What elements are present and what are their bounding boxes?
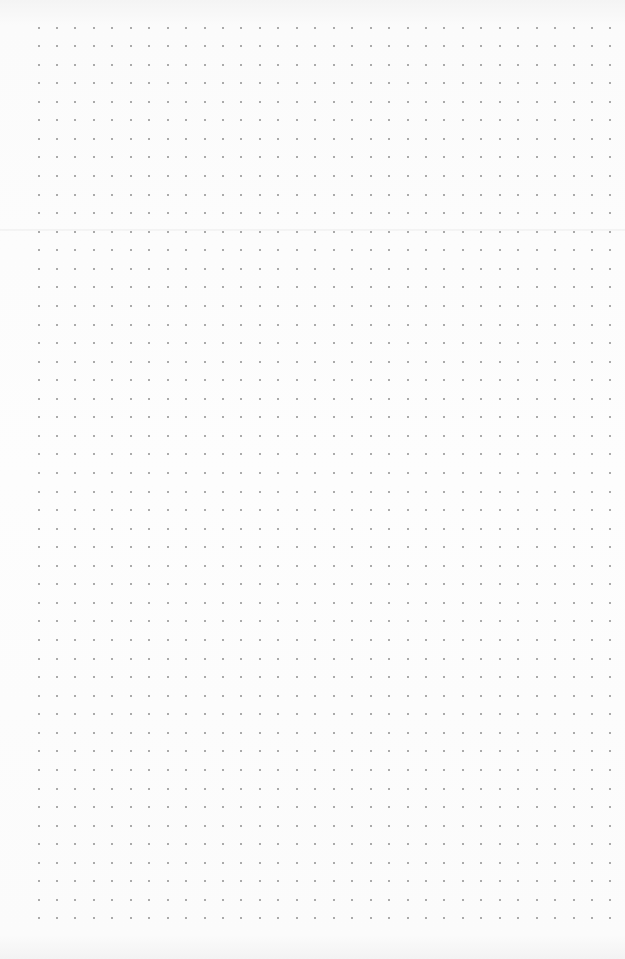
grid-dot	[591, 806, 593, 808]
grid-dot	[74, 565, 76, 567]
grid-dot	[296, 212, 298, 214]
grid-dot	[351, 583, 353, 585]
grid-dot	[222, 138, 224, 140]
grid-dot	[536, 416, 538, 418]
grid-dot	[74, 138, 76, 140]
grid-dot	[333, 286, 335, 288]
grid-dot	[204, 175, 206, 177]
grid-dot	[591, 825, 593, 827]
grid-dot	[167, 472, 169, 474]
grid-dot	[591, 713, 593, 715]
grid-dot	[74, 379, 76, 381]
grid-dot	[609, 491, 611, 493]
grid-dot	[204, 64, 206, 66]
grid-dot	[111, 825, 113, 827]
grid-dot	[314, 509, 316, 511]
grid-dot	[591, 175, 593, 177]
grid-dot	[573, 769, 575, 771]
grid-dot	[351, 194, 353, 196]
grid-dot	[554, 194, 556, 196]
grid-dot	[130, 361, 132, 363]
grid-dot	[111, 602, 113, 604]
grid-dot	[351, 138, 353, 140]
grid-dot	[333, 620, 335, 622]
grid-dot	[333, 695, 335, 697]
grid-dot	[148, 175, 150, 177]
grid-dot	[38, 268, 40, 270]
grid-dot	[277, 324, 279, 326]
grid-dot	[240, 379, 242, 381]
grid-dot	[480, 101, 482, 103]
grid-dot	[591, 101, 593, 103]
grid-dot	[296, 788, 298, 790]
grid-dot	[591, 342, 593, 344]
grid-dot	[425, 825, 427, 827]
grid-dot	[74, 398, 76, 400]
grid-dot	[185, 639, 187, 641]
grid-dot	[38, 194, 40, 196]
grid-dot	[314, 119, 316, 121]
grid-dot	[609, 268, 611, 270]
grid-dot	[185, 676, 187, 678]
grid-dot	[130, 843, 132, 845]
grid-dot	[370, 658, 372, 660]
grid-dot	[296, 732, 298, 734]
grid-dot	[351, 286, 353, 288]
grid-dot	[314, 212, 316, 214]
grid-dot	[536, 268, 538, 270]
grid-dot	[536, 175, 538, 177]
grid-dot	[480, 324, 482, 326]
grid-dot	[130, 268, 132, 270]
grid-dot	[351, 620, 353, 622]
grid-dot	[351, 453, 353, 455]
grid-dot	[259, 156, 261, 158]
grid-dot	[370, 528, 372, 530]
grid-dot	[462, 639, 464, 641]
grid-dot	[259, 750, 261, 752]
grid-dot	[38, 27, 40, 29]
grid-dot	[204, 156, 206, 158]
grid-dot	[167, 788, 169, 790]
grid-dot	[480, 45, 482, 47]
grid-dot	[296, 676, 298, 678]
grid-dot	[480, 806, 482, 808]
grid-dot	[314, 491, 316, 493]
grid-dot	[167, 175, 169, 177]
grid-dot	[407, 231, 409, 233]
grid-dot	[240, 676, 242, 678]
grid-dot	[407, 435, 409, 437]
grid-dot	[462, 231, 464, 233]
grid-dot	[591, 732, 593, 734]
grid-dot	[333, 583, 335, 585]
grid-dot	[351, 769, 353, 771]
grid-dot	[204, 249, 206, 251]
grid-dot	[148, 620, 150, 622]
grid-dot	[536, 509, 538, 511]
grid-dot	[517, 825, 519, 827]
grid-dot	[480, 713, 482, 715]
grid-dot	[222, 695, 224, 697]
grid-dot	[259, 788, 261, 790]
grid-dot	[425, 324, 427, 326]
grid-dot	[573, 491, 575, 493]
grid-dot	[536, 453, 538, 455]
grid-dot	[480, 602, 482, 604]
grid-dot	[407, 658, 409, 660]
grid-dot	[130, 491, 132, 493]
grid-dot	[609, 212, 611, 214]
grid-dot	[296, 843, 298, 845]
grid-dot	[351, 249, 353, 251]
grid-dot	[573, 27, 575, 29]
grid-dot	[609, 249, 611, 251]
grid-dot	[480, 379, 482, 381]
grid-dot	[554, 917, 556, 919]
grid-dot	[185, 324, 187, 326]
grid-dot	[333, 491, 335, 493]
grid-dot	[296, 825, 298, 827]
grid-dot	[407, 101, 409, 103]
grid-dot	[554, 416, 556, 418]
grid-dot	[480, 899, 482, 901]
grid-dot	[167, 509, 169, 511]
grid-dot	[56, 491, 58, 493]
grid-dot	[93, 472, 95, 474]
